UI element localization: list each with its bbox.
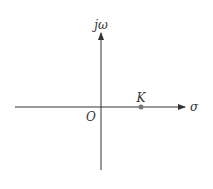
origin-label: O <box>86 110 96 124</box>
imaginary-axis-label: jω <box>91 18 108 32</box>
point-k-label: K <box>136 91 147 105</box>
point-k <box>139 105 144 110</box>
s-plane-diagram: jω σ O K <box>0 0 213 189</box>
real-axis-label: σ <box>190 100 199 114</box>
